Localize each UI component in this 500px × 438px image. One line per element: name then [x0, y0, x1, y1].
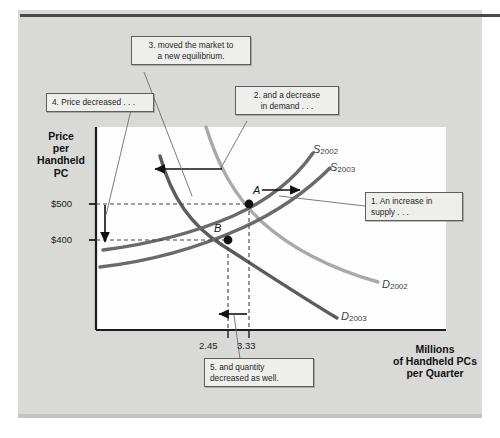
- leader-callout-4: [106, 110, 131, 215]
- curve-label-supply-2002-sub: 2002: [320, 147, 338, 156]
- callout-1-increase-supply: 1. An increase in supply . . .: [365, 192, 463, 221]
- point-label-a: A: [253, 184, 260, 196]
- point-label-b: B: [214, 222, 221, 234]
- x-axis-title: Millions of Handheld PCs per Quarter: [376, 343, 494, 380]
- curve-label-demand-2003-sub: 2003: [349, 314, 367, 323]
- callout-5-quantity-decreased: 5. and quantity decreased as well.: [204, 358, 314, 387]
- curve-label-demand-2003: D2003: [341, 310, 367, 323]
- curve-label-supply-2003: S2003: [330, 161, 355, 174]
- equilibrium-guides: [96, 204, 249, 330]
- y-axis-title: Price per Handheld PC: [30, 130, 92, 179]
- curve-supply-2003: [100, 168, 330, 267]
- equilibrium-point-b: [224, 236, 233, 245]
- y-tick-400: $400: [51, 234, 72, 245]
- curve-demand-2003: [160, 156, 337, 318]
- callout-4-price-decreased: 4. Price decreased . . .: [46, 93, 154, 112]
- curve-label-supply-2003-sub: 2003: [337, 165, 355, 174]
- x-tick-333: 3.33: [237, 340, 256, 351]
- equilibrium-point-a: [245, 200, 254, 209]
- leader-callout-5: [234, 315, 240, 359]
- callout-3-moved-market: 3. moved the market to a new equilibrium…: [131, 36, 251, 65]
- curve-label-demand-2003-main: D: [341, 310, 349, 322]
- callout-2-decrease-demand: 2. and a decrease in demand . . .: [235, 86, 339, 115]
- curve-label-demand-2002-main: D: [382, 278, 390, 290]
- x-tick-245: 2.45: [199, 340, 218, 351]
- curve-label-supply-2002: S2002: [313, 143, 338, 156]
- leader-callout-2: [221, 121, 247, 168]
- y-tick-500: $500: [51, 198, 72, 209]
- axis-lines: [89, 127, 446, 338]
- curve-label-demand-2002-sub: 2002: [390, 282, 408, 291]
- figure-page: Price per Handheld PC Millions of Handhe…: [0, 0, 500, 438]
- curve-label-demand-2002: D2002: [382, 278, 408, 291]
